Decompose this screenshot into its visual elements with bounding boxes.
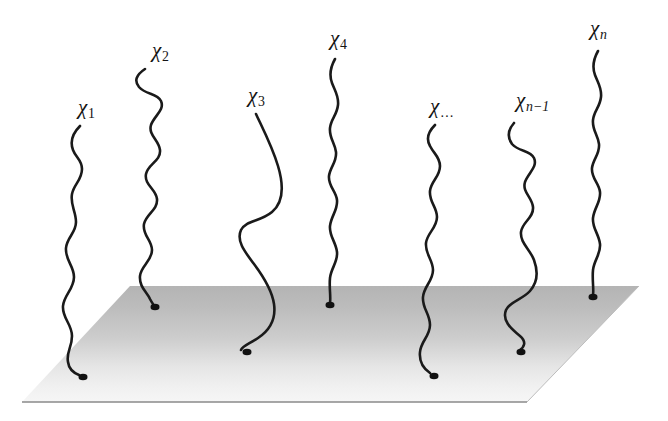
chi-symbol: χ (590, 16, 600, 40)
polymer-chain (136, 69, 162, 310)
chain-label-chi-n-minus-1: χn−1 (516, 90, 549, 114)
chi-symbol: χ (330, 26, 340, 50)
chain-index-subscript: 1 (88, 106, 95, 121)
graft-point (151, 304, 160, 310)
chain-label-chi-1: χ1 (78, 97, 95, 121)
chain-index-subscript: … (440, 105, 455, 120)
chain-index-subscript: n−1 (526, 99, 550, 114)
graft-point (517, 349, 526, 355)
chain-label-chi-dots: χ… (430, 96, 455, 120)
chain-label-chi-3: χ3 (248, 85, 265, 109)
figure-canvas (0, 0, 668, 421)
chi-symbol: χ (430, 94, 440, 118)
polymer-brush-figure: χ1χ2χ3χ4χ…χn−1χn (0, 0, 668, 421)
chain-backbone (329, 59, 338, 303)
chain-index-subscript: n (600, 27, 607, 42)
graft-point (326, 302, 335, 308)
chain-label-chi-n: χn (590, 18, 607, 42)
graft-point (79, 374, 88, 380)
graft-point (430, 373, 439, 379)
chain-index-subscript: 4 (340, 37, 347, 52)
graft-point (243, 349, 252, 355)
graft-point (589, 294, 598, 300)
chain-backbone (63, 126, 82, 375)
chain-label-chi-4: χ4 (330, 28, 347, 52)
chain-index-subscript: 2 (162, 49, 169, 64)
chain-label-chi-2: χ2 (152, 40, 169, 64)
polymer-chain (326, 59, 339, 308)
polymer-chain (589, 51, 602, 300)
chi-symbol: χ (152, 38, 162, 62)
chi-symbol: χ (248, 83, 258, 107)
chi-symbol: χ (78, 95, 88, 119)
chain-index-subscript: 3 (258, 94, 265, 109)
chain-backbone (592, 51, 601, 295)
chain-backbone (136, 69, 162, 306)
chi-symbol: χ (516, 88, 526, 112)
